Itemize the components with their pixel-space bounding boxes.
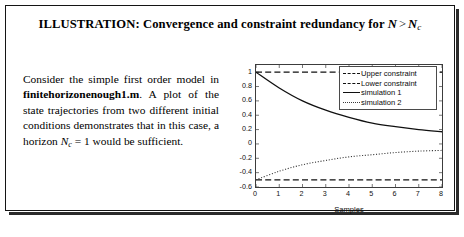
description-filename: finitehorizonenough1.m [23,88,139,100]
legend-line-swatch [342,79,361,88]
y-tick-label: 1 [234,68,252,75]
legend-entry[interactable]: Lower constraint [342,79,434,89]
legend-label: simulation 1 [361,88,402,97]
description-paragraph: Consider the simple first order model in… [23,72,219,152]
illustration-box: ILLUSTRATION: Convergence and constraint… [5,5,455,211]
x-tick-label: 1 [272,190,284,198]
y-tick-label: -0.2 [234,154,252,161]
y-tick-label: 0.4 [234,111,252,118]
x-tick-label: 2 [296,190,308,198]
horizon-equation: = 1 [75,135,90,147]
x-tick-label: 8 [435,190,447,198]
y-tick-label: 0 [234,139,252,146]
legend-line-swatch [342,69,361,78]
x-tick-label: 4 [342,190,354,198]
illustration-title-text: ILLUSTRATION: Convergence and constraint… [39,17,385,31]
legend-line-swatch [342,88,361,97]
title-math-subscript: c [417,22,421,32]
chart-figure: 10.80.60.40.20-0.2-0.4-0.6 012345678 Sam… [234,59,456,211]
box-shadow-right [456,9,459,215]
legend-label: Lower constraint [361,79,417,88]
horizon-subscript: c [68,139,72,148]
legend-label: simulation 2 [361,98,402,107]
y-tick-label: -0.4 [234,168,252,175]
y-tick-label: 0.2 [234,125,252,132]
illustration-title: ILLUSTRATION: Convergence and constraint… [6,17,454,32]
legend-entry[interactable]: Upper constraint [342,69,434,79]
chart-legend: Upper constraintLower constraintsimulati… [339,66,437,110]
legend-entry[interactable]: simulation 2 [342,98,434,108]
description-part-1: Consider the simple first order model in [23,73,219,85]
x-tick-label: 6 [389,190,401,198]
legend-entry[interactable]: simulation 1 [342,88,434,98]
y-tick-label: 0.8 [234,82,252,89]
x-tick-label: 0 [249,190,261,198]
x-tick-label: 7 [412,190,424,198]
title-math-relation: > [397,17,408,31]
y-tick-label: -0.6 [234,183,252,190]
title-math-n-sub-base: N [408,17,417,31]
title-math-n: N [388,17,397,31]
legend-line-swatch [342,98,361,107]
description-part-3: would be sufficient. [90,135,183,147]
chart-series-line [256,150,442,179]
y-tick-label: 0.6 [234,96,252,103]
x-tick-label: 3 [319,190,331,198]
x-axis-label: Samples [255,205,443,214]
x-tick-label: 5 [365,190,377,198]
legend-label: Upper constraint [361,69,417,78]
